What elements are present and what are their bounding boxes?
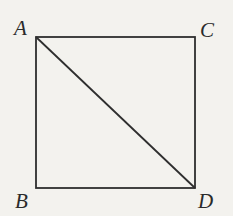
diagonal-AD — [36, 37, 195, 188]
vertex-label-b: B — [15, 189, 28, 213]
vertex-label-c: C — [200, 18, 215, 42]
vertex-label-d: D — [197, 189, 213, 213]
vertex-label-a: A — [12, 16, 27, 40]
square-diagram: A C B D — [0, 0, 233, 216]
